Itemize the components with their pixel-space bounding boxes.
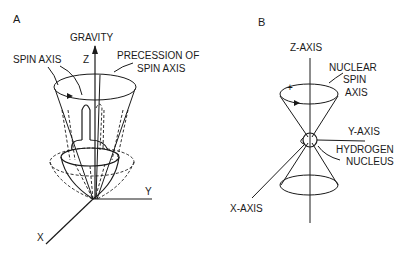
x-axis-label: X-AXIS	[230, 203, 263, 214]
rotation-direction-arrow	[294, 100, 300, 106]
panel-b-label: B	[258, 16, 265, 28]
panel-a-label: A	[13, 13, 21, 25]
spin-axis-label: SPIN AXIS	[13, 54, 62, 65]
spinning-top	[61, 105, 119, 199]
panel-b: B Z-AXIS NUCLEAR SPIN AXIS + Y-AXIS HYDR…	[230, 16, 394, 223]
nuclear-label-3: AXIS	[345, 87, 368, 98]
hydrogen-label-1: HYDROGEN	[336, 144, 394, 155]
x-label: X	[37, 232, 44, 243]
precession-leader	[114, 63, 133, 72]
spin-axis-leader-2	[60, 66, 82, 95]
z-label: Z	[83, 54, 89, 65]
precession-label-2: SPIN AXIS	[137, 63, 186, 74]
nuclear-label-2: SPIN	[343, 74, 366, 85]
gravity-label: GRAVITY	[70, 32, 113, 43]
x-axis-line	[46, 199, 93, 244]
precession-label-1: PRECESSION OF	[117, 50, 199, 61]
plus-sign: +	[287, 82, 293, 93]
nuclear-leader	[329, 73, 343, 83]
x-axis-line	[252, 144, 305, 198]
panel-a: A GRAVITY Z SPIN AXIS PRECESSION OF SPIN…	[13, 13, 199, 244]
z-axis-label: Z-AXIS	[290, 42, 323, 53]
hydrogen-label-2: NUCLEUS	[346, 156, 394, 167]
lower-precession-cone-rim	[280, 175, 338, 195]
figure: A GRAVITY Z SPIN AXIS PRECESSION OF SPIN…	[0, 0, 408, 254]
nuclear-label-1: NUCLEAR	[329, 62, 377, 73]
y-axis-label: Y-AXIS	[348, 126, 380, 137]
ghost-top-positions	[50, 104, 134, 199]
y-label: Y	[145, 186, 152, 197]
y-axis-line	[317, 140, 365, 141]
